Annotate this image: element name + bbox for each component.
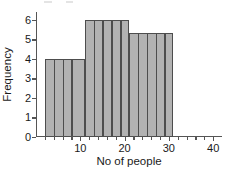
bar-divider — [120, 20, 121, 137]
x-tick-minor — [178, 136, 179, 140]
x-tick-major — [125, 136, 126, 141]
x-tick-minor — [204, 136, 205, 140]
x-tick-minor — [116, 136, 117, 140]
bar-divider — [102, 20, 103, 137]
y-tick-label: 2 — [25, 92, 31, 103]
x-tick-label: 30 — [163, 143, 175, 154]
bar-divider — [147, 33, 148, 137]
x-tick-minor — [54, 136, 55, 140]
bar-divider — [164, 33, 165, 137]
y-tick-mark — [32, 117, 36, 118]
bar-divider — [138, 33, 139, 137]
x-tick-label: 10 — [74, 143, 86, 154]
x-tick-minor — [71, 136, 72, 140]
y-tick-label: 5 — [25, 34, 31, 45]
plot-area: 0123456 — [36, 12, 222, 137]
y-tick-label: 6 — [25, 14, 31, 25]
histogram-figure: 0123456 10203040 No of people Frequency — [0, 0, 238, 177]
histogram-bar — [129, 33, 173, 137]
x-tick-minor — [63, 136, 64, 140]
x-tick-minor — [187, 136, 188, 140]
scan-artifact — [44, 0, 90, 4]
bar-divider — [71, 59, 72, 137]
x-axis-label: No of people — [36, 156, 222, 168]
x-tick-label: 40 — [207, 143, 219, 154]
y-tick-mark — [32, 78, 36, 79]
x-tick-major — [169, 136, 170, 141]
x-tick-minor — [133, 136, 134, 140]
x-tick-minor — [151, 136, 152, 140]
x-tick-minor — [107, 136, 108, 140]
x-tick-minor — [160, 136, 161, 140]
y-tick-label: 1 — [25, 112, 31, 123]
y-tick-mark — [32, 59, 36, 60]
x-tick-major — [213, 136, 214, 141]
y-tick-label: 4 — [25, 53, 31, 64]
y-tick-mark — [32, 137, 36, 138]
y-tick-label: 3 — [25, 73, 31, 84]
bar-divider — [54, 59, 55, 137]
y-tick-mark — [32, 98, 36, 99]
bar-divider — [111, 20, 112, 137]
x-tick-minor — [142, 136, 143, 140]
histogram-bar — [85, 20, 129, 137]
y-axis-label: Frequency — [2, 12, 16, 137]
x-tick-major — [80, 136, 81, 141]
y-tick-mark — [32, 20, 36, 21]
x-tick-minor — [98, 136, 99, 140]
x-tick-minor — [89, 136, 90, 140]
x-tick-label: 20 — [118, 143, 130, 154]
y-tick-mark — [32, 39, 36, 40]
bar-divider — [94, 20, 95, 137]
bar-divider — [156, 33, 157, 137]
y-tick-label: 0 — [25, 132, 31, 143]
x-tick-minor — [195, 136, 196, 140]
histogram-bar — [45, 59, 85, 137]
x-tick-minor — [45, 136, 46, 140]
bar-divider — [63, 59, 64, 137]
